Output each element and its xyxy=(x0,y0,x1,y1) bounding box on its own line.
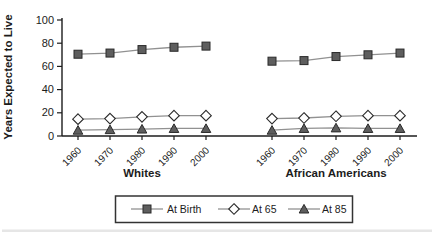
diamond-marker xyxy=(267,113,278,124)
square-marker xyxy=(396,49,404,57)
y-axis-title: Years Expected to Live xyxy=(2,14,14,139)
y-tick-label: 100 xyxy=(36,14,54,26)
square-marker xyxy=(268,57,276,65)
y-tick-label: 20 xyxy=(42,106,54,118)
x-tick-label: 1990 xyxy=(350,144,374,168)
group-label: African Americans xyxy=(285,167,386,179)
legend-item-label: At 85 xyxy=(322,203,347,215)
square-marker xyxy=(364,51,372,59)
x-tick-label: 2000 xyxy=(188,144,212,168)
x-tick-label: 1990 xyxy=(156,144,180,168)
diamond-marker xyxy=(73,114,84,125)
square-marker xyxy=(74,50,82,58)
scan-artifact-line xyxy=(2,230,432,233)
diamond-marker xyxy=(363,110,374,121)
legend-item-label: At 65 xyxy=(252,203,277,215)
diamond-marker xyxy=(331,111,342,122)
x-tick-label: 1970 xyxy=(286,144,310,168)
diamond-marker xyxy=(395,110,406,121)
chart-canvas: 020406080100Years Expected to Live196019… xyxy=(0,0,434,235)
legend-item-label: At Birth xyxy=(167,203,202,215)
diamond-marker xyxy=(137,112,148,123)
x-tick-label: 1980 xyxy=(318,144,342,168)
x-tick-label: 1960 xyxy=(254,144,278,168)
diamond-marker xyxy=(169,110,180,121)
square-marker xyxy=(170,43,178,51)
x-tick-label: 1980 xyxy=(124,144,148,168)
y-tick-label: 60 xyxy=(42,60,54,72)
square-marker xyxy=(138,46,146,54)
diamond-marker xyxy=(201,110,212,121)
panel-1: 19601970198019902000African Americans xyxy=(254,49,406,179)
group-label: Whites xyxy=(123,167,161,179)
square-marker xyxy=(106,49,114,57)
legend: At BirthAt 65At 85 xyxy=(116,196,353,223)
square-marker xyxy=(332,53,340,61)
square-marker xyxy=(202,42,210,50)
y-tick-label: 80 xyxy=(42,37,54,49)
square-marker xyxy=(143,205,151,213)
x-tick-label: 2000 xyxy=(382,144,406,168)
panel-0: 19601970198019902000Whites xyxy=(60,42,212,179)
diamond-marker xyxy=(299,113,310,124)
y-tick-label: 0 xyxy=(48,130,54,142)
y-tick-label: 40 xyxy=(42,83,54,95)
diamond-marker xyxy=(105,113,116,124)
square-marker xyxy=(300,57,308,65)
life-expectancy-chart: 020406080100Years Expected to Live196019… xyxy=(0,0,434,235)
x-tick-label: 1970 xyxy=(92,144,116,168)
x-tick-label: 1960 xyxy=(60,144,84,168)
